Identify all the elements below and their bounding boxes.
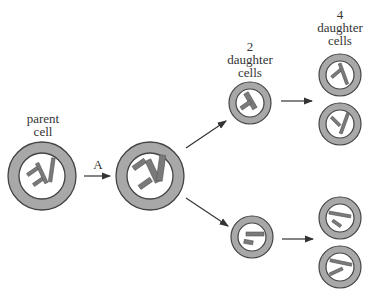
daughter-cell-2-top (229, 82, 271, 124)
daughter-cell-4-4 (319, 246, 361, 288)
daughter-cell-2-bottom (231, 216, 273, 258)
arrow-to-top-daughter (186, 121, 226, 148)
two-daughter-cells-label: 2 daughter cells (218, 40, 282, 79)
label-line: cells (218, 66, 282, 79)
parent-cell-label: parent cell (14, 112, 72, 138)
step-A-label: A (88, 158, 108, 171)
label-line: cells (308, 34, 372, 47)
daughter-cell-4-3 (319, 197, 361, 239)
daughter-cell-4-2 (319, 103, 361, 145)
daughter-cell-4-1 (319, 54, 361, 96)
parent-cell (8, 142, 76, 210)
replicated-cell (116, 142, 184, 210)
four-daughter-cells-label: 4 daughter cells (308, 8, 372, 47)
arrow-to-bottom-daughter (186, 198, 228, 226)
label-line: cell (14, 125, 72, 138)
